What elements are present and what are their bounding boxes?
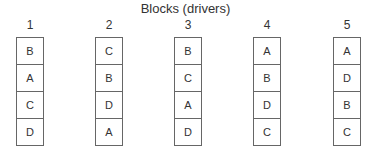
block-cell: C [175,64,201,91]
block-3: 3 B C A D [174,17,202,146]
block-stack: A D B C [333,37,361,146]
block-cell: B [17,38,43,64]
block-cell: D [175,118,201,145]
block-number: 4 [253,17,281,37]
block-cell: A [96,118,122,145]
block-4: 4 A B D C [253,17,281,146]
block-2: 2 C B D A [95,17,123,146]
block-number: 2 [95,17,123,37]
block-stack: B A C D [16,37,44,146]
block-stack: A B D C [253,37,281,146]
block-cell: C [17,91,43,118]
block-1: 1 B A C D [16,17,44,146]
block-cell: C [96,38,122,64]
diagram-title: Blocks (drivers) [0,1,371,16]
block-cell: B [254,64,280,91]
block-cell: A [17,64,43,91]
block-cell: B [96,64,122,91]
block-number: 3 [174,17,202,37]
block-cell: B [175,38,201,64]
block-cell: C [334,118,360,145]
block-cell: D [96,91,122,118]
block-cell: D [17,118,43,145]
block-5: 5 A D B C [333,17,361,146]
block-cell: D [334,64,360,91]
block-cell: C [254,118,280,145]
block-stack: C B D A [95,37,123,146]
block-stack: B C A D [174,37,202,146]
block-cell: A [254,38,280,64]
block-number: 5 [333,17,361,37]
block-number: 1 [16,17,44,37]
block-cell: A [175,91,201,118]
block-cell: A [334,38,360,64]
block-cell: D [254,91,280,118]
block-cell: B [334,91,360,118]
